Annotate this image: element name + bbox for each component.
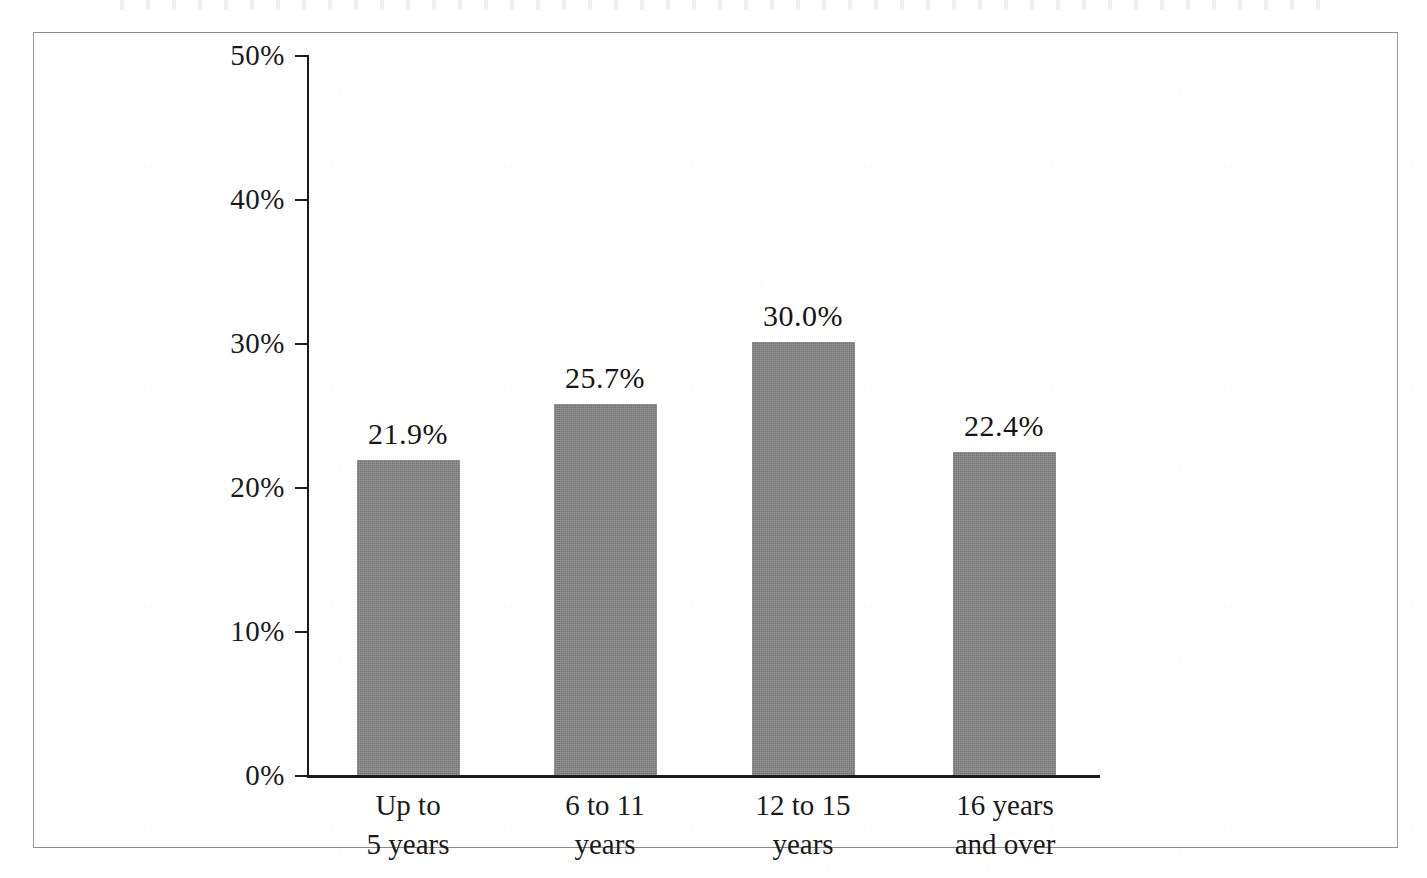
- y-axis-line: [307, 55, 309, 776]
- x-category-label-line1: 6 to 11: [565, 789, 644, 821]
- y-tick-mark-50: [295, 55, 308, 57]
- x-category-label-line2: and over: [900, 825, 1110, 864]
- x-category-label-12-to-15-years: 12 to 15 years: [698, 786, 908, 864]
- x-category-label-line2: years: [500, 825, 710, 864]
- y-tick-mark-40: [295, 199, 308, 201]
- y-tick-label-10: 10%: [165, 617, 285, 646]
- y-tick-label-50: 50%: [165, 41, 285, 70]
- x-category-label-up-to-5-years: Up to 5 years: [303, 786, 513, 864]
- bar-6-to-11-years: [554, 404, 657, 775]
- y-tick-label-10-wrap: 10%: [155, 617, 285, 646]
- chart-page: 0% 10% 20% 30% 40% 50% 21.9% 25.7% 30.0%…: [0, 0, 1427, 878]
- y-tick-mark-10: [295, 631, 308, 633]
- y-tick-label-40: 40%: [165, 185, 285, 214]
- x-category-label-line1: 16 years: [956, 789, 1053, 821]
- bar-up-to-5-years: [357, 460, 460, 775]
- y-tick-label-0-wrap: 0%: [155, 761, 285, 790]
- y-tick-mark-30: [295, 343, 308, 345]
- y-tick-label-30-wrap: 30%: [155, 329, 285, 358]
- y-tick-label-0: 0%: [165, 761, 285, 790]
- y-tick-mark-20: [295, 487, 308, 489]
- x-category-label-16-years-and-over: 16 years and over: [900, 786, 1110, 864]
- x-category-label-6-to-11-years: 6 to 11 years: [500, 786, 710, 864]
- y-tick-label-20-wrap: 20%: [155, 473, 285, 502]
- y-tick-label-40-wrap: 40%: [155, 185, 285, 214]
- bar-value-12-to-15-years: 30.0%: [703, 301, 903, 331]
- y-tick-label-50-wrap: 50%: [155, 41, 285, 70]
- bar-value-16-years-and-over: 22.4%: [904, 411, 1104, 441]
- y-tick-mark-0: [295, 775, 308, 777]
- x-category-label-line2: years: [698, 825, 908, 864]
- x-category-label-line2: 5 years: [303, 825, 513, 864]
- x-category-label-line1: 12 to 15: [755, 789, 850, 821]
- x-axis-line: [307, 775, 1100, 778]
- y-tick-label-20: 20%: [165, 473, 285, 502]
- bar-value-6-to-11-years: 25.7%: [505, 363, 705, 393]
- x-category-label-line1: Up to: [375, 789, 440, 821]
- y-tick-label-30: 30%: [165, 329, 285, 358]
- plot-area: 0% 10% 20% 30% 40% 50% 21.9% 25.7% 30.0%…: [0, 0, 1427, 878]
- bar-12-to-15-years: [752, 342, 855, 775]
- bar-16-years-and-over: [953, 452, 1056, 775]
- bar-value-up-to-5-years: 21.9%: [308, 419, 508, 449]
